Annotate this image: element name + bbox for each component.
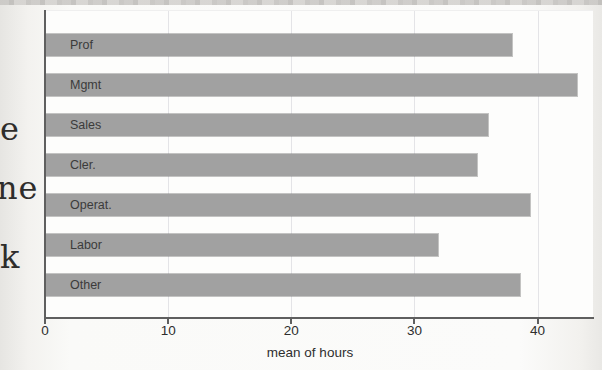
- cutoff-text-fragment-1: e: [0, 113, 20, 145]
- cutoff-text-fragment-3: k: [0, 241, 20, 273]
- bar-label-prof: Prof: [70, 38, 93, 52]
- bar-mgmt: Mgmt: [45, 74, 577, 96]
- x-tick-label-10: 10: [148, 323, 188, 338]
- gridline-x-40: [538, 11, 539, 319]
- x-tick-label-0: 0: [25, 323, 65, 338]
- bar-prof: Prof: [45, 34, 512, 56]
- cutoff-text-fragment-2: ne: [0, 172, 39, 204]
- bar-label-sales: Sales: [70, 118, 101, 132]
- x-tick-label-40: 40: [518, 323, 558, 338]
- bar-labor: Labor: [45, 234, 438, 256]
- bar-label-cler: Cler.: [70, 158, 96, 172]
- bar-cler: Cler.: [45, 154, 477, 176]
- scanned-book-page: e ne k ProfMgmtSalesCler.Operat.LaborOth…: [0, 0, 602, 370]
- bar-other: Other: [45, 274, 520, 296]
- bar-operat: Operat.: [45, 194, 530, 216]
- bar-label-other: Other: [70, 278, 101, 292]
- plot-area: ProfMgmtSalesCler.Operat.LaborOther: [45, 10, 593, 319]
- bar-label-operat: Operat.: [70, 198, 112, 212]
- y-axis-line: [44, 10, 46, 318]
- x-tick-label-20: 20: [271, 323, 311, 338]
- x-axis-line: [44, 317, 594, 319]
- x-axis-title: mean of hours: [45, 345, 575, 360]
- x-tick-label-30: 30: [394, 323, 434, 338]
- bar-sales: Sales: [45, 114, 488, 136]
- scan-edge-artifact: [0, 0, 602, 5]
- bar-label-mgmt: Mgmt: [70, 78, 101, 92]
- bar-label-labor: Labor: [70, 238, 102, 252]
